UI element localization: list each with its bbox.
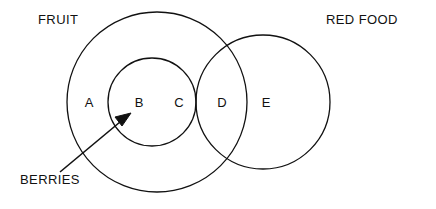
region-label-d: D: [217, 95, 226, 110]
set-label-red-food: RED FOOD: [326, 12, 398, 27]
set-label-fruit: FRUIT: [38, 12, 78, 27]
venn-diagram-canvas: FRUIT RED FOOD A B C D E BERRIES: [0, 0, 436, 209]
callout-label-berries: BERRIES: [20, 172, 80, 187]
region-label-c: C: [174, 95, 183, 110]
region-label-b: B: [135, 95, 144, 110]
region-label-e: E: [262, 95, 271, 110]
region-label-a: A: [85, 95, 94, 110]
venn-diagram-svg: FRUIT RED FOOD A B C D E BERRIES: [0, 0, 436, 209]
